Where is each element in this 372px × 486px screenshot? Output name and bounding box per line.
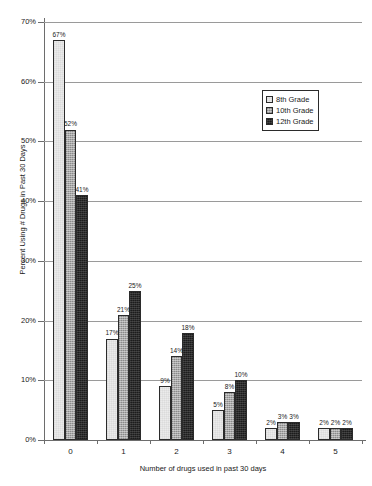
y-axis-title: Percent Using # Drugs in Past 30 Days	[18, 110, 27, 310]
x-axis-tick	[256, 440, 257, 444]
legend-item[interactable]: 10th Grade	[266, 105, 314, 116]
legend-item-label: 10th Grade	[276, 106, 314, 115]
bar[interactable]	[171, 356, 183, 440]
bar-value-label: 25%	[118, 282, 152, 289]
grid-line	[44, 22, 362, 23]
bar-chart: 0%10%20%30%40%50%60%70% 67%52%41%17%21%2…	[0, 0, 372, 486]
bar[interactable]	[224, 392, 236, 440]
grid-line	[44, 201, 362, 202]
bar-value-label: 67%	[42, 31, 76, 38]
bar[interactable]	[76, 195, 88, 440]
x-axis-tick	[150, 440, 151, 444]
bar[interactable]	[212, 410, 224, 440]
y-axis-tick-label: 70%	[4, 18, 36, 26]
bar-value-label: 10%	[224, 371, 258, 378]
legend-item[interactable]: 8th Grade	[266, 94, 314, 105]
x-axis-tick	[362, 440, 363, 444]
x-axis-tick	[44, 440, 45, 444]
grid-line	[44, 261, 362, 262]
plot-area	[44, 22, 362, 440]
grid-line	[44, 141, 362, 142]
x-axis-tick	[203, 440, 204, 444]
x-axis-tick-label: 0	[56, 447, 86, 457]
bar[interactable]	[159, 386, 171, 440]
bar-value-label: 5%	[201, 401, 235, 408]
x-axis-tick	[309, 440, 310, 444]
bar[interactable]	[265, 428, 277, 440]
bar-value-label: 52%	[54, 120, 88, 127]
bar[interactable]	[65, 130, 77, 441]
bar[interactable]	[288, 422, 300, 440]
bar-value-label: 9%	[148, 377, 182, 384]
legend-swatch-icon	[266, 96, 273, 103]
y-axis-tick-label: 10%	[4, 376, 36, 384]
bar[interactable]	[106, 339, 118, 441]
bar[interactable]	[129, 291, 141, 440]
bar-value-label: 3%	[277, 413, 311, 420]
legend-swatch-icon	[266, 118, 273, 125]
bar-value-label: 2%	[254, 419, 288, 426]
x-axis-tick-label: 4	[268, 447, 298, 457]
legend-item[interactable]: 12th Grade	[266, 116, 314, 127]
grid-line	[44, 321, 362, 322]
x-axis-tick-label: 2	[162, 447, 192, 457]
legend-item-label: 8th Grade	[276, 95, 309, 104]
bar-value-label: 2%	[330, 419, 364, 426]
bar[interactable]	[330, 428, 342, 440]
bar[interactable]	[53, 40, 65, 440]
bar-value-label: 17%	[95, 329, 129, 336]
x-axis-title: Number of drugs used in past 30 days	[44, 464, 362, 473]
grid-line	[44, 380, 362, 381]
bar-value-label: 41%	[65, 186, 99, 193]
bar[interactable]	[318, 428, 330, 440]
x-axis-tick-label: 1	[109, 447, 139, 457]
grid-line	[44, 82, 362, 83]
bar-value-label: 21%	[107, 306, 141, 313]
bar[interactable]	[341, 428, 353, 440]
bar-value-label: 8%	[213, 383, 247, 390]
legend-swatch-icon	[266, 107, 273, 114]
legend[interactable]: 8th Grade10th Grade12th Grade	[262, 90, 319, 131]
y-axis-tick-label: 20%	[4, 317, 36, 325]
y-axis-tick-label: 60%	[4, 78, 36, 86]
bar-value-label: 18%	[171, 324, 205, 331]
bar-value-label: 14%	[160, 347, 194, 354]
x-axis-tick-label: 3	[215, 447, 245, 457]
x-axis-tick-label: 5	[321, 447, 351, 457]
x-axis-tick	[97, 440, 98, 444]
y-axis-tick-label: 0%	[4, 436, 36, 444]
legend-item-label: 12th Grade	[276, 117, 314, 126]
